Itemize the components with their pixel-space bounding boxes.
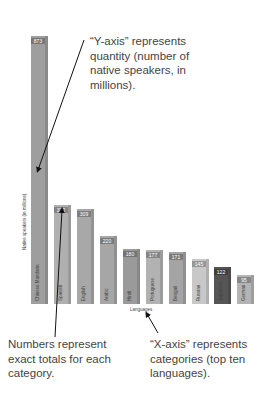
numbers-arrow-icon xyxy=(55,210,62,337)
bar-chart: 873Chinese Mandarin322Spanish309English2… xyxy=(0,0,272,407)
x-axis-arrow-icon xyxy=(147,314,158,333)
y-axis-arrow-icon xyxy=(38,40,84,170)
annotation-arrows xyxy=(0,0,272,407)
